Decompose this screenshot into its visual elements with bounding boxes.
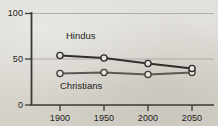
- series-hindus: [57, 52, 195, 71]
- series-label-hindus: Hindus: [66, 30, 96, 41]
- hindus-line: [60, 56, 192, 69]
- y-axis-tick-label-100: 100: [0, 8, 23, 18]
- christians-point-2000: [145, 71, 151, 77]
- x-axis-tick-label-2000: 2000: [130, 113, 166, 123]
- hindus-point-2000: [145, 60, 151, 66]
- christians-line: [60, 73, 192, 75]
- x-axis-tick-label-2050: 2050: [174, 113, 210, 123]
- x-axis-tick-label-1900: 1900: [42, 113, 78, 123]
- y-axis-tick-label-50: 50: [0, 54, 23, 64]
- line-chart: [0, 0, 218, 126]
- y-tick-marks: [25, 14, 31, 106]
- hindus-point-1900: [57, 52, 63, 58]
- series-label-christians: Christians: [60, 80, 102, 91]
- hindus-point-1950: [101, 55, 107, 61]
- christians-point-1900: [57, 70, 63, 76]
- hindus-point-2050: [189, 65, 195, 71]
- series-christians: [57, 69, 195, 77]
- x-tick-marks: [60, 105, 192, 111]
- y-axis-tick-label-0: 0: [0, 100, 23, 110]
- x-axis-tick-label-1950: 1950: [86, 113, 122, 123]
- christians-point-1950: [101, 69, 107, 75]
